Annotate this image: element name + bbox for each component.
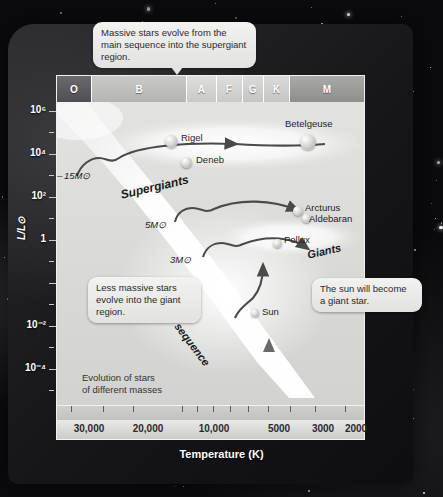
x-tick: [290, 406, 291, 412]
star-label-arcturus: Arcturus: [305, 202, 340, 213]
background-star: [235, 17, 237, 19]
star-label-pollux: Pollux: [284, 234, 310, 245]
x-tick: [133, 406, 134, 412]
x-tick-label: 5000: [268, 423, 290, 434]
y-tick: [49, 326, 56, 327]
y-tick: [49, 390, 54, 391]
background-star: [4, 257, 5, 258]
mass-label-5m: 5M⊙: [145, 219, 166, 230]
callout-massive-stars-text: Massive stars evolve from the main seque…: [101, 27, 246, 62]
x-tick: [182, 406, 183, 412]
plot-area: Rigel Deneb Betelgeuse Arcturus Aldebara…: [57, 102, 364, 405]
star-marker-rigel: [165, 135, 178, 148]
background-star: [60, 12, 62, 14]
spectral-class-label: A: [198, 84, 206, 95]
spectral-class-m: M: [290, 76, 364, 102]
figure-caption-line2: of different masses: [82, 384, 162, 396]
background-star: [2, 196, 4, 198]
y-tick-label: 10²: [18, 190, 46, 201]
y-tick: [49, 218, 54, 219]
x-axis-title: Temperature (K): [0, 448, 443, 460]
star-marker-betelgeuse: [300, 134, 316, 150]
y-tick: [49, 111, 56, 112]
y-axis-title: L/L⊙: [16, 217, 27, 240]
y-tick: [49, 197, 56, 198]
background-star: [423, 492, 425, 494]
y-tick: [49, 175, 54, 176]
y-tick: [49, 283, 56, 284]
star-marker-arcturus: [293, 206, 303, 216]
star-label-deneb: Deneb: [196, 154, 224, 165]
x-tick: [71, 406, 72, 412]
y-tick-label: 10⁶: [18, 104, 46, 115]
x-tick-label: 20,000: [133, 423, 164, 434]
star-label-aldebaran: Aldebaran: [309, 213, 352, 224]
y-tick-label: 10⁻²: [12, 319, 46, 330]
spectral-class-label: M: [323, 84, 332, 95]
background-star: [174, 486, 175, 487]
spectral-class-label: K: [273, 84, 281, 95]
x-tick-label: 30,000: [74, 423, 105, 434]
background-star: [413, 418, 414, 419]
x-tick: [197, 406, 198, 412]
background-star: [437, 161, 440, 164]
spectral-class-f: F: [217, 76, 243, 102]
background-star: [311, 7, 312, 8]
background-star: [147, 7, 150, 10]
spectral-class-axis: OBAFGKM: [57, 76, 364, 102]
background-star: [308, 490, 310, 492]
callout-sun-giant-text: The sun will become a giant star.: [320, 283, 407, 306]
background-star: [431, 203, 433, 205]
background-star: [215, 3, 216, 4]
background-star: [347, 13, 350, 16]
y-tick: [49, 369, 56, 370]
spectral-class-label: F: [226, 84, 233, 95]
spectral-class-b: B: [92, 76, 187, 102]
x-tick: [315, 406, 316, 412]
background-star: [414, 249, 416, 251]
x-tick-label: 3000: [312, 423, 334, 434]
star-marker-deneb: [181, 157, 192, 168]
mass-tick-15m: –: [57, 170, 62, 181]
mass-label-15m: 15M⊙: [64, 170, 90, 181]
hr-diagram-panel: OBAFGKM: [56, 75, 365, 406]
background-star: [434, 229, 436, 231]
x-tick-label: 2000: [345, 423, 367, 434]
y-tick: [49, 261, 54, 262]
background-star: [435, 218, 436, 219]
x-tick: [345, 406, 346, 412]
background-star: [439, 226, 442, 229]
x-axis-ticks: [56, 406, 365, 420]
callout-sun-giant: The sun will become a giant star.: [312, 278, 422, 312]
figure-caption-line1: Evolution of stars: [82, 372, 162, 384]
y-tick: [49, 304, 54, 305]
x-axis-labels: 30,000 20,000 10,000 5000 3000 2000: [56, 420, 365, 440]
spectral-class-label: O: [70, 84, 78, 95]
y-tick-label: 10⁻⁴: [12, 362, 46, 373]
star-label-rigel: Rigel: [181, 132, 203, 143]
y-tick: [49, 154, 56, 155]
x-tick: [230, 406, 231, 412]
spectral-class-label: B: [136, 84, 144, 95]
callout-massive-stars: Massive stars evolve from the main seque…: [93, 22, 256, 68]
background-star: [436, 180, 437, 181]
x-tick: [103, 406, 104, 412]
background-star: [401, 16, 402, 17]
x-tick: [213, 406, 214, 412]
star-label-betelgeuse: Betelgeuse: [285, 118, 333, 129]
star-marker-sun: [251, 309, 259, 317]
x-tick: [268, 406, 269, 412]
spectral-class-g: G: [243, 76, 264, 102]
x-tick-label: 10,000: [199, 423, 230, 434]
spectral-class-a: A: [187, 76, 216, 102]
star-marker-pollux: [273, 239, 282, 248]
background-star: [183, 486, 185, 488]
spectral-class-k: K: [264, 76, 290, 102]
y-tick-label: 10⁴: [18, 147, 46, 158]
figure-caption: Evolution of stars of different masses: [82, 372, 162, 396]
x-tick: [248, 406, 249, 412]
callout-less-massive-stars-text: Less massive stars evolve into the giant…: [96, 282, 181, 317]
background-star: [441, 222, 443, 224]
star-label-sun: Sun: [262, 306, 279, 317]
callout-less-massive-stars: Less massive stars evolve into the giant…: [88, 277, 201, 323]
